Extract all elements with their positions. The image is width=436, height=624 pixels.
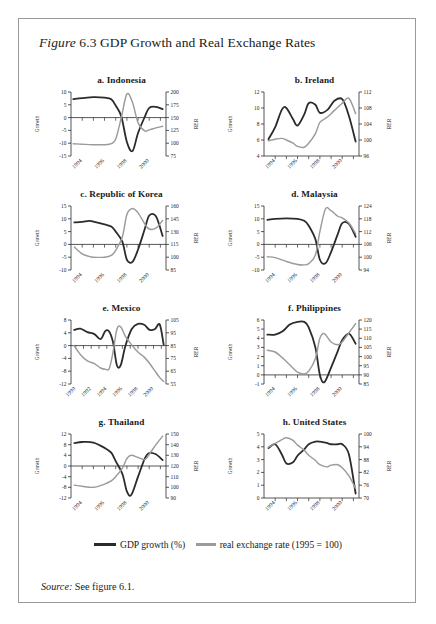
y-axis-tick-label: 0 (64, 115, 67, 121)
y-axis-tick-label: 5 (64, 102, 67, 108)
chart-plot: 54321010094888276701994199619982000Growt… (218, 426, 411, 531)
x-axis-tick-label: 1998 (115, 157, 127, 169)
y2-axis-tick-label: 120 (171, 463, 179, 469)
y-axis-tick-label: 4 (257, 153, 260, 159)
y-axis-title: Growth (227, 115, 233, 132)
y-axis-tick-label: 0 (257, 241, 260, 247)
y2-axis-tick-label: 150 (171, 431, 179, 437)
x-axis-tick-label: 1996 (286, 157, 298, 169)
y-axis-tick-label: -8 (62, 484, 67, 490)
y2-axis-tick-label: 82 (364, 469, 370, 475)
y2-axis-tick-label: 90 (171, 495, 177, 501)
y-axis-tick-label: 0 (64, 463, 67, 469)
x-axis-tick-label: 1998 (127, 385, 139, 397)
chart-series-line (267, 321, 355, 382)
x-axis-tick-label: 2000 (331, 499, 343, 511)
y2-axis-title: RER (193, 232, 199, 243)
x-axis-tick-label: 1996 (286, 271, 298, 283)
y2-axis-tick-label: 175 (171, 102, 179, 108)
y-axis-title: Growth (227, 457, 233, 474)
figure-legend: GDP growth (%) real exchange rate (1995 … (19, 537, 417, 550)
legend-item-real-exchange-rate: real exchange rate (1995 = 100) (196, 538, 342, 550)
y2-axis-tick-label: 104 (364, 121, 372, 127)
y-axis-tick-label: 8 (64, 442, 67, 448)
y2-axis-tick-label: 124 (364, 203, 372, 209)
y2-axis-tick-label: 115 (171, 241, 179, 247)
y-axis-tick-label: 12 (254, 89, 260, 95)
y-axis-tick-label: -1 (255, 381, 260, 387)
y-axis-tick-label: 10 (254, 105, 260, 111)
y-axis-title: Growth (227, 343, 233, 360)
x-axis-tick-label: 1990 (64, 385, 76, 397)
x-axis-tick-label: 1998 (308, 385, 320, 397)
y2-axis-tick-label: 94 (364, 444, 370, 450)
y2-axis-tick-label: 150 (171, 115, 179, 121)
y2-axis-tick-label: 75 (171, 153, 177, 159)
y-axis-tick-label: -10 (59, 267, 66, 273)
x-axis-tick-label: 2000 (331, 271, 343, 283)
y-axis-tick-label: 3 (257, 344, 260, 350)
legend-item-gdp-growth: GDP growth (%) (94, 538, 185, 550)
y-axis-tick-label: -4 (62, 355, 67, 361)
source-note: Source: See figure 6.1. (41, 581, 134, 592)
y-axis-tick-label: 10 (61, 216, 67, 222)
x-axis-tick-label: 1996 (286, 385, 298, 397)
y2-axis-tick-label: 100 (364, 137, 372, 143)
y-axis-tick-label: -10 (252, 267, 259, 273)
y-axis-tick-label: 15 (61, 203, 67, 209)
x-axis-tick-label: 1994 (71, 499, 83, 511)
y-axis-tick-label: 0 (64, 343, 67, 349)
x-axis-tick-label: 1992 (80, 385, 92, 397)
y2-axis-tick-label: 75 (171, 355, 177, 361)
chart-series-line (267, 208, 355, 265)
y-axis-tick-label: -12 (59, 381, 66, 387)
x-axis-tick-label: 1996 (111, 385, 123, 397)
y2-axis-tick-label: 90 (364, 372, 370, 378)
y-axis-tick-label: -5 (255, 254, 260, 260)
chart-panel: d. Malaysia151050-5-10124118112106100941… (218, 189, 411, 303)
y-axis-title: Growth (34, 343, 40, 360)
y-axis-tick-label: 0 (64, 241, 67, 247)
chart-plot: 151050-5-1016014513011510085199419961998… (25, 198, 218, 303)
y2-axis-tick-label: 94 (364, 267, 370, 273)
chart-plot: 6543210-11201151101051009590851994199619… (218, 312, 411, 417)
y2-axis-tick-label: 95 (364, 363, 370, 369)
x-axis-tick-label: 1998 (308, 271, 320, 283)
y-axis-tick-label: 5 (257, 326, 260, 332)
chart-plot: 1210864112108104100961994199619982000Gro… (218, 84, 411, 189)
y2-axis-tick-label: 115 (364, 326, 372, 332)
y-axis-tick-label: 2 (257, 469, 260, 475)
y2-axis-tick-label: 130 (171, 452, 179, 458)
y-axis-tick-label: 6 (257, 317, 260, 323)
y-axis-tick-label: -8 (62, 368, 67, 374)
legend-label-gdp-growth: GDP growth (%) (120, 539, 185, 550)
y-axis-tick-label: 4 (64, 330, 67, 336)
y-axis-tick-label: 6 (257, 137, 260, 143)
chart-panel: f. Philippines6543210-112011511010510095… (218, 303, 411, 417)
y-axis-tick-label: 5 (257, 229, 260, 235)
y2-axis-tick-label: 145 (171, 216, 179, 222)
x-axis-tick-label: 2000 (138, 271, 150, 283)
chart-panel: c. Republic of Korea151050-5-10160145130… (25, 189, 218, 303)
x-axis-tick-label: 1994 (71, 271, 83, 283)
y-axis-title: Growth (34, 457, 40, 474)
y-axis-title: Growth (34, 115, 40, 132)
x-axis-tick-label: 1996 (93, 157, 105, 169)
y2-axis-title: RER (193, 118, 199, 129)
x-axis-tick-label: 1994 (264, 385, 276, 397)
y2-axis-tick-label: 200 (171, 89, 179, 95)
chart-series-line (74, 436, 162, 487)
x-axis-tick-label: 1996 (93, 271, 105, 283)
y2-axis-tick-label: 65 (171, 368, 177, 374)
y2-axis-tick-label: 88 (364, 457, 370, 463)
figure-number: 6.3 (79, 35, 96, 50)
panel-grid: a. Indonesia1050-5-10-152001751501251007… (25, 75, 411, 531)
chart-series-line (74, 326, 164, 381)
y2-axis-tick-label: 112 (364, 229, 372, 235)
figure-frame: Figure 6.3 GDP Growth and Real Exchange … (18, 18, 416, 603)
x-axis-tick-label: 1996 (286, 499, 298, 511)
y2-axis-tick-label: 110 (364, 335, 372, 341)
y2-axis-tick-label: 96 (364, 153, 370, 159)
y2-axis-tick-label: 125 (171, 127, 179, 133)
source-label: Source: (41, 581, 72, 592)
